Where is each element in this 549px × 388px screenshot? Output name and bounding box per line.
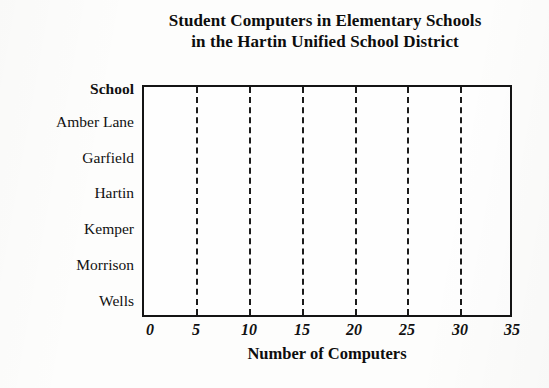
chart-title-line-1: Student Computers in Elementary Schools [120,10,530,31]
category-axis-title: School [0,80,134,98]
category-label-hartin: Hartin [0,184,134,202]
xtick-label-30: 30 [440,321,480,339]
category-label-amber-lane: Amber Lane [0,113,134,131]
gridline-10 [249,87,251,315]
chart-title: Student Computers in Elementary Schools … [120,10,530,52]
xtick-label-5: 5 [176,321,216,339]
gridline-30 [460,87,462,315]
xtick-label-35: 35 [492,321,532,339]
value-axis-title: Number of Computers [142,344,512,364]
gridline-25 [407,87,409,315]
xtick-label-20: 20 [334,321,374,339]
xtick-label-15: 15 [282,321,322,339]
chart-page: Student Computers in Elementary Schools … [0,0,549,388]
gridline-5 [196,87,198,315]
category-label-wells: Wells [0,292,134,310]
category-label-garfield: Garfield [0,149,134,167]
gridline-15 [302,87,304,315]
category-label-morrison: Morrison [0,256,134,274]
gridline-20 [355,87,357,315]
xtick-label-10: 10 [229,321,269,339]
xtick-label-0: 0 [130,321,170,339]
plot-area [142,85,512,317]
chart-title-line-2: in the Hartin Unified School District [120,31,530,52]
category-label-kemper: Kemper [0,220,134,238]
xtick-label-25: 25 [387,321,427,339]
